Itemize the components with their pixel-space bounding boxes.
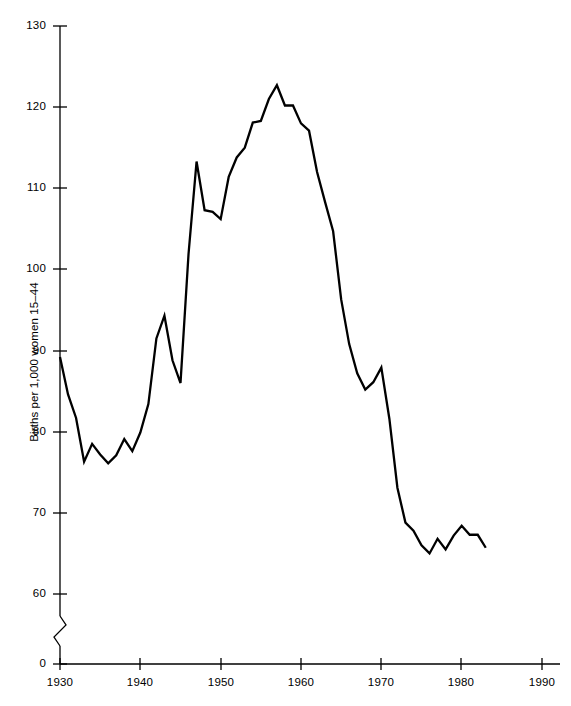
- y-axis-break-mark: [54, 616, 66, 646]
- y-tick-label-0: 0: [2, 657, 46, 669]
- y-tick-label-100: 100: [2, 262, 46, 274]
- y-tick-label-130: 130: [2, 19, 46, 31]
- x-tick-label-1970: 1970: [358, 676, 404, 688]
- plot-area: [0, 0, 571, 706]
- x-tick-label-1950: 1950: [198, 676, 244, 688]
- x-tick-label-1940: 1940: [117, 676, 163, 688]
- data-series-line: [60, 85, 486, 553]
- x-tick-label-1960: 1960: [278, 676, 324, 688]
- y-tick-label-70: 70: [2, 506, 46, 518]
- fertility-rate-line-chart: Births per 1,000 women 15–44: [0, 0, 571, 706]
- y-tick-label-90: 90: [2, 344, 46, 356]
- y-tick-label-80: 80: [2, 425, 46, 437]
- x-tick-label-1980: 1980: [438, 676, 484, 688]
- y-tick-label-110: 110: [2, 181, 46, 193]
- x-tick-label-1990: 1990: [519, 676, 565, 688]
- x-tick-label-1930: 1930: [37, 676, 83, 688]
- y-tick-label-120: 120: [2, 100, 46, 112]
- y-tick-label-60: 60: [2, 587, 46, 599]
